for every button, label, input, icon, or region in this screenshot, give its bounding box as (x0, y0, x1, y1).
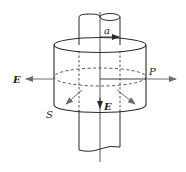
radius-label: a (104, 25, 110, 36)
e-field-left-label: E (12, 74, 21, 85)
point-p-label: P (148, 66, 156, 77)
wire-top (79, 14, 120, 46)
poynting-label: S (46, 109, 53, 120)
wire-poynting-diagram: a P E S E (0, 0, 186, 172)
wire-bottom (79, 110, 120, 151)
poynting-arrow-left (66, 90, 82, 104)
e-field-axial-label: E (103, 101, 112, 112)
